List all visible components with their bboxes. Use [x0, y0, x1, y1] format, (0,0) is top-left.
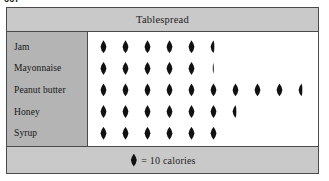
- droplet-symbol: [141, 40, 163, 53]
- droplet-symbol: [207, 83, 229, 96]
- legend-label: = 10 calories: [141, 155, 195, 166]
- pictograph-row-peanut-butter: [88, 79, 318, 101]
- droplet-symbol: [141, 105, 163, 118]
- droplet-symbol: [141, 127, 163, 140]
- droplet-symbol: [251, 83, 273, 96]
- droplet-symbol-icon: [129, 154, 138, 167]
- pictograph-body: Jam Mayonnaise Peanut butter Honey Syrup: [7, 32, 318, 147]
- pictograph-figure: Tablespread Jam Mayonnaise Peanut butter…: [6, 7, 319, 174]
- droplet-symbol: [185, 83, 207, 96]
- droplet-symbol: [163, 62, 185, 75]
- page-number: 667: [4, 0, 20, 4]
- droplet-symbol-partial: [229, 105, 251, 118]
- droplet-symbol-partial: [207, 40, 229, 53]
- droplet-symbol: [163, 83, 185, 96]
- droplet-symbol: [185, 127, 207, 140]
- category-label-syrup: Syrup: [7, 122, 87, 144]
- droplet-symbol: [119, 62, 141, 75]
- category-label-honey: Honey: [7, 101, 87, 123]
- pictograph-plot-area: [88, 32, 318, 146]
- category-label-jam: Jam: [7, 36, 87, 58]
- droplet-symbol: [97, 105, 119, 118]
- droplet-symbol: [97, 40, 119, 53]
- droplet-symbol: [141, 83, 163, 96]
- pictograph-row-mayonnaise: [88, 58, 318, 80]
- pictograph-row-syrup: [88, 122, 318, 144]
- droplet-symbol: [185, 62, 207, 75]
- droplet-symbol: [119, 127, 141, 140]
- page-title: Tablespread: [136, 14, 189, 25]
- category-label-column: Jam Mayonnaise Peanut butter Honey Syrup: [7, 32, 88, 146]
- droplet-symbol: [141, 62, 163, 75]
- droplet-symbol-partial: [207, 62, 229, 75]
- droplet-symbol: [119, 40, 141, 53]
- droplet-symbol: [273, 83, 295, 96]
- droplet-symbol: [163, 40, 185, 53]
- category-label-peanut-butter: Peanut butter: [7, 79, 87, 101]
- droplet-symbol: [97, 127, 119, 140]
- figure-title-band: Tablespread: [7, 8, 318, 32]
- droplet-symbol: [229, 83, 251, 96]
- legend-band: = 10 calories: [7, 147, 318, 173]
- droplet-symbol: [207, 127, 229, 140]
- droplet-symbol: [207, 105, 229, 118]
- category-label-mayonnaise: Mayonnaise: [7, 58, 87, 80]
- pictograph-row-honey: [88, 101, 318, 123]
- droplet-symbol: [97, 62, 119, 75]
- pictograph-row-jam: [88, 36, 318, 58]
- droplet-symbol: [185, 40, 207, 53]
- droplet-symbol: [185, 105, 207, 118]
- droplet-symbol-partial: [295, 83, 317, 96]
- droplet-symbol: [119, 83, 141, 96]
- legend: = 10 calories: [129, 154, 195, 167]
- droplet-symbol: [163, 105, 185, 118]
- droplet-symbol: [119, 105, 141, 118]
- droplet-symbol: [97, 83, 119, 96]
- droplet-symbol: [163, 127, 185, 140]
